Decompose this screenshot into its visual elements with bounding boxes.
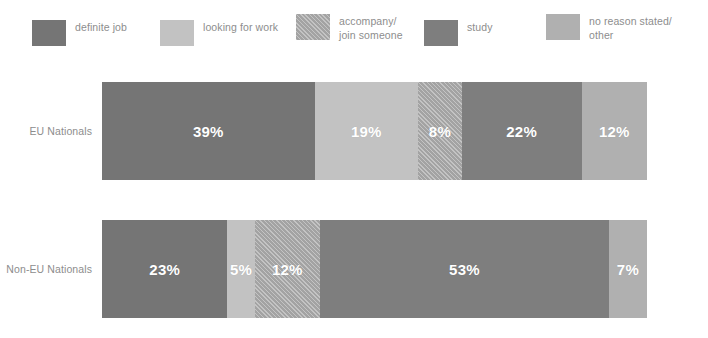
legend-item-label: definite job	[75, 20, 127, 35]
bar-segment-value: 12%	[599, 123, 630, 140]
legend-item-accompany-join-someone: accompany/ join someone	[296, 14, 403, 42]
bar-segment: 8%	[418, 82, 462, 180]
legend-swatch-icon	[160, 20, 194, 46]
legend-swatch-icon	[32, 20, 66, 46]
legend-item-label: looking for work	[203, 20, 278, 35]
bar-segment: 53%	[320, 220, 609, 318]
bar-segment: 22%	[462, 82, 582, 180]
bar-category-label: EU Nationals	[0, 82, 92, 180]
bar-segment-value: 12%	[272, 261, 303, 278]
bar-segment: 19%	[315, 82, 419, 180]
bar-segment-value: 5%	[230, 261, 252, 278]
bar-segment-value: 19%	[351, 123, 382, 140]
bar-segment: 23%	[102, 220, 227, 318]
bar-segment-value: 22%	[506, 123, 537, 140]
chart-legend: definite job looking for work accompany/…	[0, 0, 708, 70]
bar-segment: 12%	[582, 82, 647, 180]
bar-category-label: Non-EU Nationals	[0, 220, 92, 318]
legend-swatch-icon	[424, 20, 458, 46]
stacked-bar-chart: EU Nationals 39% 19% 8% 22% 12% Non-EU N…	[0, 70, 708, 338]
legend-item-looking-for-work: looking for work	[160, 20, 278, 46]
legend-swatch-icon	[296, 14, 330, 40]
legend-item-label: no reason stated/ other	[589, 14, 672, 42]
bar-segment: 5%	[227, 220, 254, 318]
bar-segment-value: 7%	[617, 261, 639, 278]
legend-swatch-icon	[546, 14, 580, 40]
bar-segment-value: 53%	[449, 261, 480, 278]
bar-segment-value: 39%	[193, 123, 224, 140]
legend-item-definite-job: definite job	[32, 20, 127, 46]
legend-item-label: accompany/ join someone	[339, 14, 403, 42]
legend-item-no-reason-stated-other: no reason stated/ other	[546, 14, 672, 42]
bar-segment: 7%	[609, 220, 647, 318]
bar-row: EU Nationals 39% 19% 8% 22% 12%	[0, 82, 708, 180]
bar-segment-value: 8%	[429, 123, 451, 140]
legend-item-label: study	[467, 20, 493, 35]
bar-segment-value: 23%	[149, 261, 180, 278]
bar-segment: 39%	[102, 82, 315, 180]
bar-row: Non-EU Nationals 23% 5% 12% 53% 7%	[0, 220, 708, 318]
stacked-bar: 39% 19% 8% 22% 12%	[102, 82, 647, 180]
bar-segment: 12%	[255, 220, 320, 318]
legend-item-study: study	[424, 20, 493, 46]
stacked-bar: 23% 5% 12% 53% 7%	[102, 220, 647, 318]
